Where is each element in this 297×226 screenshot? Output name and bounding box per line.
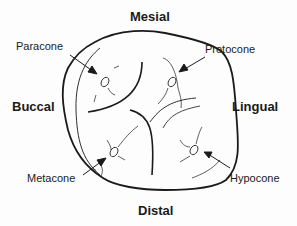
label-buccal: Buccal <box>12 99 55 114</box>
central-groove-distal <box>130 110 153 175</box>
small-annotation: b <box>93 167 96 173</box>
hypocone-tip <box>188 144 199 156</box>
protocone-tip <box>166 76 177 88</box>
lingual-groove <box>150 98 196 122</box>
label-metacone: Metacone <box>27 172 75 184</box>
label-lingual: Lingual <box>232 99 278 114</box>
label-mesial: Mesial <box>130 9 170 24</box>
central-groove-mesial <box>88 62 142 112</box>
label-distal: Distal <box>138 203 173 218</box>
label-hypocone: Hypocone <box>230 172 280 184</box>
oblique-ridge <box>163 106 200 128</box>
paracone-tip <box>99 76 110 88</box>
label-protocone: Protocone <box>205 43 255 55</box>
label-paracone: Paracone <box>16 40 63 52</box>
